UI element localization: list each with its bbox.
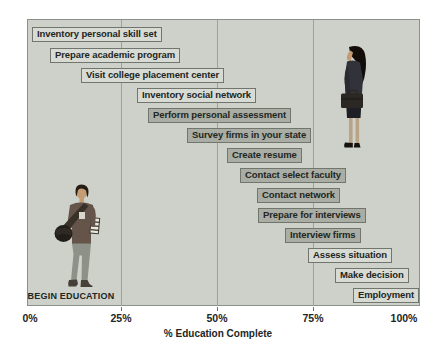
gridline-50-percent (217, 20, 218, 306)
begin-education-caption: BEGIN EDUCATION (28, 291, 115, 301)
task-box-employment: Employment (353, 288, 419, 303)
figure-canvas: Inventory personal skill set Prepare aca… (0, 0, 436, 352)
task-box-interview-firms: Interview firms (285, 228, 361, 243)
graduate-businesswoman-figure-icon (337, 44, 373, 150)
task-box-survey-firms-in-your-state: Survey firms in your state (187, 128, 311, 143)
task-box-inventory-personal-skill-set: Inventory personal skill set (32, 27, 162, 42)
tick-mark-50-percent (217, 307, 218, 311)
task-box-assess-situation: Assess situation (308, 248, 392, 263)
task-box-prepare-academic-program: Prepare academic program (50, 48, 180, 63)
x-axis-title: % Education Complete (164, 328, 272, 339)
tick-label-75-percent: 75% (302, 312, 323, 324)
task-box-prepare-for-interviews: Prepare for interviews (258, 208, 366, 223)
task-box-inventory-social-network: Inventory social network (137, 88, 256, 103)
task-box-contact-network: Contact network (257, 188, 340, 203)
student-figure-icon (52, 182, 104, 288)
task-box-make-decision: Make decision (335, 268, 409, 283)
tick-mark-25-percent (121, 307, 122, 311)
task-box-create-resume: Create resume (227, 148, 302, 163)
tick-label-100-percent: 100% (391, 312, 418, 324)
tick-label-50-percent: 50% (206, 312, 227, 324)
tick-label-0-percent: 0% (22, 312, 37, 324)
task-box-perform-personal-assessment: Perform personal assessment (148, 108, 291, 123)
tick-label-25-percent: 25% (110, 312, 131, 324)
gridline-75-percent (313, 20, 314, 306)
task-box-contact-select-faculty: Contact select faculty (240, 168, 346, 183)
task-box-visit-college-placement-center: Visit college placement center (81, 68, 224, 83)
tick-mark-75-percent (313, 307, 314, 311)
